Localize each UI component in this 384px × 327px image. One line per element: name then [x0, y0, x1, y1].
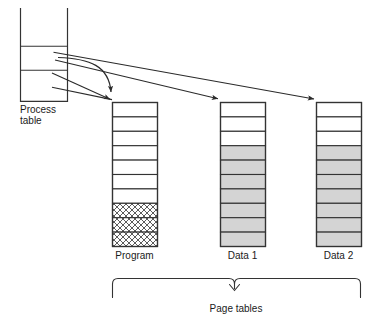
- page-table-cell[interactable]: [317, 103, 362, 117]
- process-table: [20, 8, 68, 102]
- page-table-cell[interactable]: [317, 232, 362, 246]
- page-table-cell[interactable]: [221, 189, 266, 203]
- page-table-cell[interactable]: [221, 175, 266, 189]
- page-table-cell[interactable]: [317, 175, 362, 189]
- process-table-row-3[interactable]: [21, 70, 68, 101]
- page-table-cell[interactable]: [113, 175, 158, 189]
- process-table-label: Process table: [20, 104, 56, 126]
- page-table-cell[interactable]: [221, 160, 266, 174]
- page-table-cell[interactable]: [317, 146, 362, 160]
- page-table-cell[interactable]: [113, 218, 158, 232]
- page-table-program: [113, 103, 158, 247]
- diagram-vector-layer: [0, 0, 384, 327]
- diagram-canvas: Process table Program Data 1 Data 2 Page…: [0, 0, 384, 327]
- page-table-cell[interactable]: [221, 131, 266, 145]
- page-table-label-data2: Data 2: [324, 250, 353, 261]
- page-table-cell[interactable]: [113, 146, 158, 160]
- page-table-cell[interactable]: [317, 131, 362, 145]
- page-table-cell[interactable]: [113, 232, 158, 246]
- page-table-cell[interactable]: [113, 103, 158, 117]
- page-table-cell[interactable]: [317, 189, 362, 203]
- page-tables-group: [113, 103, 362, 247]
- process-table-label-line2: table: [20, 115, 56, 126]
- page-table-label-program: Program: [115, 250, 153, 261]
- pointer-tail-segment-4: [52, 87, 112, 99]
- page-table-cell[interactable]: [113, 203, 158, 217]
- page-table-cell[interactable]: [113, 131, 158, 145]
- page-tables-caption: Page tables: [210, 303, 263, 314]
- page-table-cell[interactable]: [113, 160, 158, 174]
- page-table-cell[interactable]: [317, 160, 362, 174]
- page-table-cell[interactable]: [221, 203, 266, 217]
- process-table-label-line1: Process: [20, 104, 56, 115]
- page-table-cell[interactable]: [317, 218, 362, 232]
- pointer-arrow-to-data2[interactable]: [54, 52, 315, 99]
- page-table-cell[interactable]: [113, 117, 158, 131]
- page-table-cell[interactable]: [221, 146, 266, 160]
- page-table-cell[interactable]: [317, 203, 362, 217]
- page-table-label-data1: Data 1: [228, 250, 257, 261]
- pointer-arrows: [52, 52, 314, 99]
- page-table-cell[interactable]: [317, 117, 362, 131]
- page-tables-brace: [113, 279, 361, 298]
- page-table-cell[interactable]: [221, 232, 266, 246]
- process-table-row-2[interactable]: [21, 46, 68, 70]
- page-table-data1: [221, 103, 266, 247]
- page-table-cell[interactable]: [221, 103, 266, 117]
- page-table-cell[interactable]: [113, 189, 158, 203]
- page-table-data2: [317, 103, 362, 247]
- page-table-cell[interactable]: [221, 218, 266, 232]
- pointer-arrow-to-program[interactable]: [52, 73, 110, 99]
- process-table-row-1[interactable]: [21, 8, 68, 46]
- page-table-cell[interactable]: [221, 117, 266, 131]
